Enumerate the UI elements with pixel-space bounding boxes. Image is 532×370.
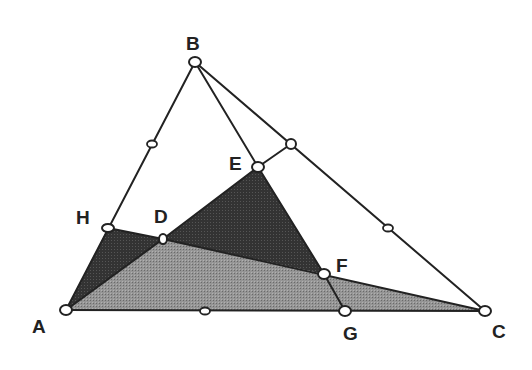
vertex-b: [189, 57, 201, 67]
point-label-e: E: [229, 153, 242, 174]
vertex-c: [479, 306, 491, 316]
segment-a-c: [66, 310, 485, 311]
vertex-g: [339, 306, 351, 316]
point-label-f: F: [336, 255, 348, 276]
geometry-diagram: A B C D E F G H: [0, 0, 532, 370]
midpoint-marker-bc: [383, 225, 393, 232]
midpoint-marker-ac: [200, 308, 210, 315]
vertex-a: [60, 305, 72, 315]
diagram-canvas: A B C D E F G H: [0, 0, 532, 370]
segment-b-e: [195, 62, 258, 167]
point-label-h: H: [76, 207, 90, 228]
vertex-m-bc: [286, 139, 296, 149]
midpoint-marker-ab: [147, 141, 157, 148]
point-label-d: D: [154, 206, 168, 227]
point-label-a: A: [32, 316, 46, 337]
vertex-e: [252, 162, 264, 172]
vertex-h: [102, 224, 114, 232]
vertex-f: [318, 269, 330, 279]
point-label-c: C: [492, 321, 506, 342]
point-label-b: B: [186, 33, 200, 54]
point-label-g: G: [343, 323, 358, 344]
vertex-d: [159, 234, 167, 244]
